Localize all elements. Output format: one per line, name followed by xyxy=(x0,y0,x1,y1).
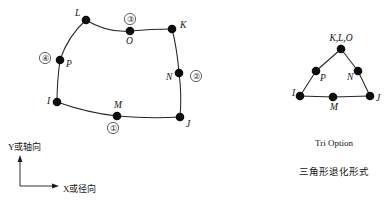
axis-y-label: Y或轴向 xyxy=(8,141,42,152)
quad-node-M xyxy=(113,112,122,121)
tri-element-group: K,L,O I J P N M xyxy=(291,33,381,112)
face-marker-3: ③ xyxy=(124,13,135,24)
face-marker-4-label: ④ xyxy=(42,54,49,63)
face-marker-2: ② xyxy=(190,70,201,81)
quad-label-M: M xyxy=(113,100,123,110)
tri-node-J xyxy=(366,92,375,101)
tri-node-N xyxy=(354,67,363,76)
axis-x-label: X或径向 xyxy=(63,183,97,194)
tri-node-P xyxy=(312,67,321,76)
quad-node-K xyxy=(168,25,177,34)
quad-label-P: P xyxy=(65,59,72,69)
quad-label-K: K xyxy=(179,20,187,30)
quad-element-group: I J K L M N O P ① ② ③ ④ xyxy=(39,8,201,134)
face-marker-1-label: ① xyxy=(110,124,117,133)
tri-node-KLO xyxy=(337,45,346,54)
quad-node-J xyxy=(176,113,185,122)
quad-node-P xyxy=(56,56,65,65)
face-marker-4: ④ xyxy=(39,52,50,63)
tri-label-N: N xyxy=(346,72,354,82)
quad-label-N: N xyxy=(165,72,173,82)
quad-label-O: O xyxy=(126,36,133,46)
quad-label-I: I xyxy=(46,96,51,106)
face-marker-2-label: ② xyxy=(193,72,200,81)
quad-label-J: J xyxy=(186,119,191,129)
quad-node-I xyxy=(53,98,62,107)
quad-label-L: L xyxy=(74,8,80,18)
tri-label-J: J xyxy=(376,93,381,103)
axis-y-arrowhead xyxy=(18,155,23,162)
tri-node-I xyxy=(296,92,305,101)
face-marker-3-label: ③ xyxy=(127,15,134,24)
tri-label-I: I xyxy=(291,88,296,98)
tri-label-P: P xyxy=(319,73,326,83)
quad-node-L xyxy=(82,16,91,25)
quad-node-O xyxy=(126,27,135,36)
tri-node-M xyxy=(329,93,338,102)
caption-chinese: 三角形退化形式 xyxy=(299,166,369,177)
element-degeneration-diagram: I J K L M N O P ① ② ③ ④ xyxy=(0,0,387,205)
tri-label-M: M xyxy=(329,102,339,112)
tri-label-KLO: K,L,O xyxy=(328,33,352,43)
coordinate-axes-group: Y或轴向 X或径向 xyxy=(8,141,97,194)
caption-english: Tri Option xyxy=(315,138,353,148)
axis-x-arrowhead xyxy=(52,184,59,189)
face-marker-1: ① xyxy=(107,122,118,133)
quad-node-N xyxy=(175,69,184,78)
figure-root: I J K L M N O P ① ② ③ ④ xyxy=(0,0,387,205)
